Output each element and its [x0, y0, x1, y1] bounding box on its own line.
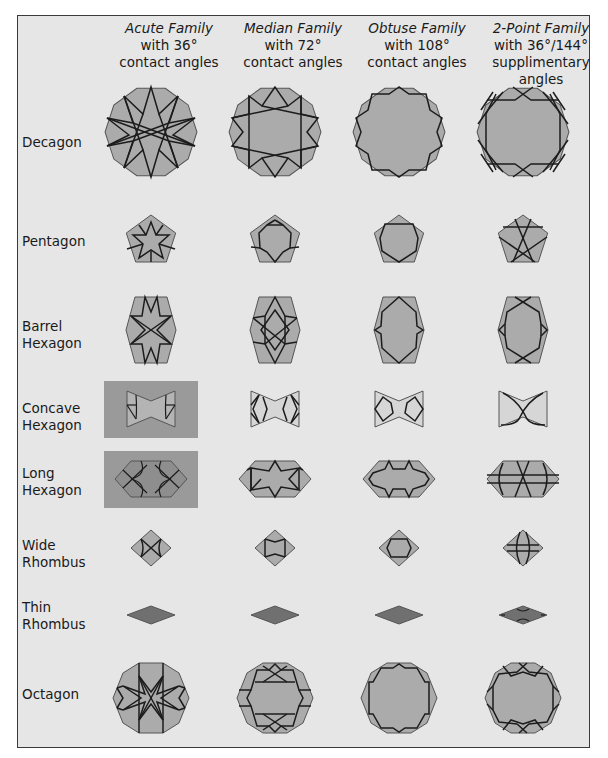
row-label-text: Wide [22, 537, 56, 553]
octagon-acute-tile [111, 658, 191, 738]
row-label-text: Decagon [22, 134, 82, 150]
row-label-text: Hexagon [22, 417, 82, 433]
decagon-acute-tile [103, 84, 199, 180]
row-label-text: Long [22, 465, 55, 481]
family-name: Median Family [228, 20, 358, 37]
long-hexagon-acute-tile [111, 456, 191, 502]
row-label-barrel-hexagon: BarrelHexagon [22, 318, 82, 352]
angle-text: contact angles [352, 54, 482, 71]
octagon-obtuse-tile [359, 658, 439, 738]
pentagon-median-tile [245, 211, 305, 271]
row-label-text: Octagon [22, 686, 79, 702]
thin-rhombus-acute-tile [121, 603, 181, 627]
barrel-hexagon-acute-tile [121, 294, 181, 366]
row-label-text: Barrel [22, 318, 62, 334]
family-name: Acute Family [104, 20, 234, 37]
wide-rhombus-acute-tile [126, 526, 176, 570]
pentagon-obtuse-tile [369, 211, 429, 271]
barrel-hexagon-2point-tile [493, 294, 553, 366]
decagon-obtuse-tile [351, 84, 447, 180]
row-label-text: Concave [22, 400, 80, 416]
row-label-wide-rhombus: WideRhombus [22, 537, 86, 571]
row-label-octagon: Octagon [22, 686, 79, 703]
row-label-text: Hexagon [22, 335, 82, 351]
concave-hexagon-2point-tile [493, 386, 553, 432]
angle-text: with 72° [228, 37, 358, 54]
row-label-text: Rhombus [22, 616, 86, 632]
column-header-2point: 2-Point Family with 36°/144° supplimenta… [476, 20, 606, 88]
octagon-median-tile [235, 658, 315, 738]
thin-rhombus-obtuse-tile [369, 603, 429, 627]
barrel-hexagon-median-tile [245, 294, 305, 366]
angle-text: contact angles [104, 54, 234, 71]
angle-text: contact angles [228, 54, 358, 71]
family-name: Obtuse Family [352, 20, 482, 37]
family-name: 2-Point Family [476, 20, 606, 37]
long-hexagon-median-tile [235, 456, 315, 502]
row-label-text: Pentagon [22, 233, 85, 249]
thin-rhombus-2point-tile [493, 603, 553, 627]
row-label-text: Rhombus [22, 554, 86, 570]
row-label-text: Hexagon [22, 482, 82, 498]
row-label-decagon: Decagon [22, 134, 82, 151]
angle-text: with 36° [104, 37, 234, 54]
angle-text: supplimentary [476, 54, 606, 71]
girih-tile-table: Acute Family with 36° contact angles Med… [17, 15, 590, 748]
long-hexagon-obtuse-tile [359, 456, 439, 502]
angle-text: with 36°/144° [476, 37, 606, 54]
column-header-obtuse: Obtuse Family with 108° contact angles [352, 20, 482, 71]
row-label-thin-rhombus: ThinRhombus [22, 599, 86, 633]
pentagon-acute-tile [121, 211, 181, 271]
barrel-hexagon-obtuse-tile [369, 294, 429, 366]
column-header-median: Median Family with 72° contact angles [228, 20, 358, 71]
long-hexagon-2point-tile [483, 456, 563, 502]
concave-hexagon-obtuse-tile [369, 386, 429, 432]
row-label-text: Thin [22, 599, 51, 615]
wide-rhombus-2point-tile [498, 526, 548, 570]
pentagon-2point-tile [493, 211, 553, 271]
concave-hexagon-median-tile [245, 386, 305, 432]
octagon-2point-tile [483, 658, 563, 738]
wide-rhombus-median-tile [250, 526, 300, 570]
decagon-2point-tile [475, 84, 571, 180]
decagon-median-tile [227, 84, 323, 180]
row-label-long-hexagon: LongHexagon [22, 465, 82, 499]
column-header-acute: Acute Family with 36° contact angles [104, 20, 234, 71]
concave-hexagon-acute-tile [121, 386, 181, 432]
row-label-pentagon: Pentagon [22, 233, 85, 250]
wide-rhombus-obtuse-tile [374, 526, 424, 570]
row-label-concave-hexagon: ConcaveHexagon [22, 400, 82, 434]
angle-text: with 108° [352, 37, 482, 54]
thin-rhombus-median-tile [245, 603, 305, 627]
